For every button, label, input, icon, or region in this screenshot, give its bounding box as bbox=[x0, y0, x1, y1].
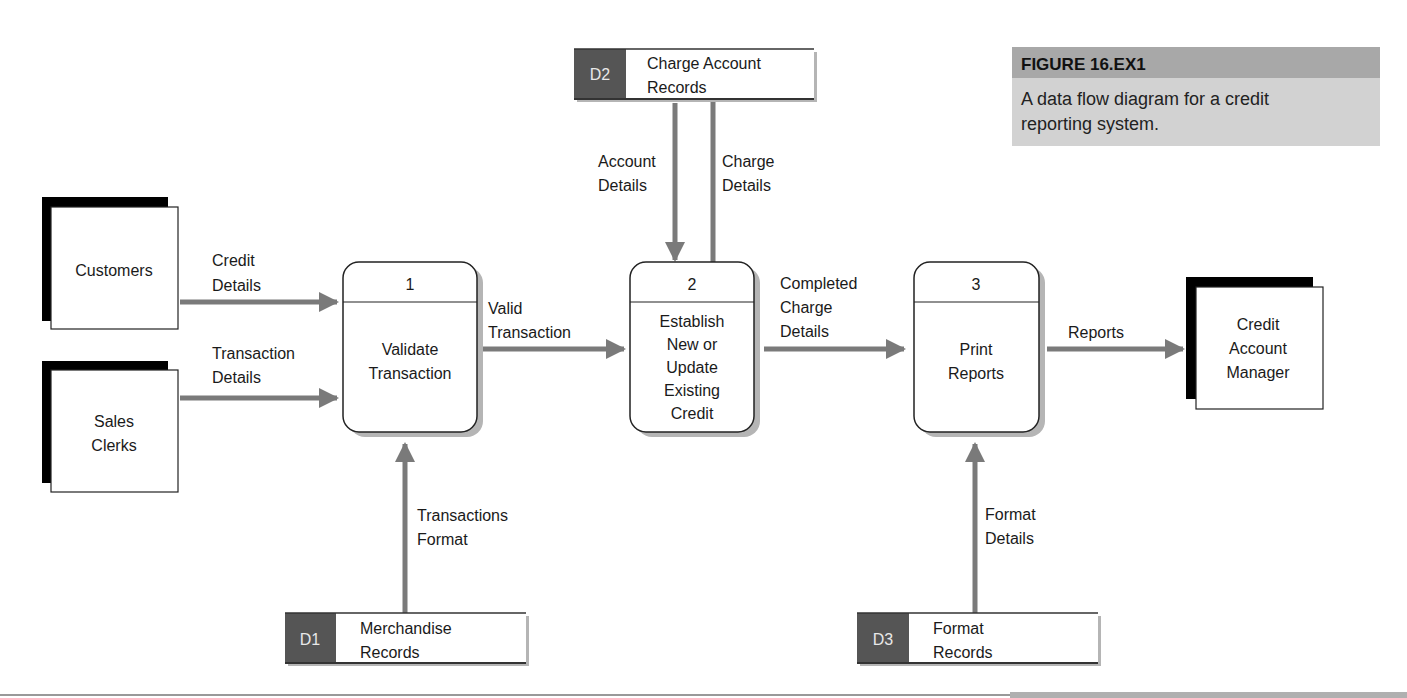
process-label-line-2: New or bbox=[667, 336, 718, 353]
flow-label-format-details-1: Format bbox=[985, 506, 1036, 523]
store-label-line-2: Records bbox=[360, 644, 420, 661]
flow-label-transaction-details-2: Details bbox=[212, 369, 261, 386]
flow-label-valid-transaction-2: Transaction bbox=[488, 324, 571, 341]
process-number: 3 bbox=[972, 276, 981, 293]
entity-label-line-2: Account bbox=[1229, 340, 1287, 357]
process-label-line-1: Print bbox=[960, 341, 993, 358]
process-label-line-1: Establish bbox=[660, 313, 725, 330]
process-number: 1 bbox=[406, 276, 415, 293]
process-3[interactable]: 3 Print Reports bbox=[914, 262, 1045, 437]
store-label-line-1: Charge Account bbox=[647, 55, 761, 72]
store-label-line-2: Records bbox=[933, 644, 993, 661]
flow-label-credit-details-1: Credit bbox=[212, 252, 255, 269]
flow-label-transactions-format-1: Transactions bbox=[417, 507, 508, 524]
process-label-line-2: Transaction bbox=[369, 365, 452, 382]
process-1[interactable]: 1 Validate Transaction bbox=[343, 262, 483, 437]
flow-label-reports: Reports bbox=[1068, 324, 1124, 341]
process-label-line-2: Reports bbox=[948, 365, 1004, 382]
process-number: 2 bbox=[688, 276, 697, 293]
store-id: D1 bbox=[300, 631, 321, 648]
flow-label-valid-transaction-1: Valid bbox=[488, 300, 522, 317]
entity-label-line-1: Credit bbox=[1237, 316, 1280, 333]
page-bottom-rule bbox=[0, 692, 1407, 698]
data-store-d3[interactable]: D3 Format Records bbox=[857, 613, 1101, 666]
process-label-line-5: Credit bbox=[671, 405, 714, 422]
data-store-d1[interactable]: D1 Merchandise Records bbox=[285, 613, 529, 666]
entity-label: Customers bbox=[75, 262, 152, 279]
flow-label-completed-charge-details-2: Charge bbox=[780, 299, 833, 316]
process-2[interactable]: 2 Establish New or Update Existing Credi… bbox=[630, 262, 760, 437]
flow-label-charge-details-1: Charge bbox=[722, 153, 775, 170]
flow-label-charge-details-2: Details bbox=[722, 177, 771, 194]
entity-sales-clerks[interactable]: Sales Clerks bbox=[42, 361, 178, 492]
store-label-line-2: Records bbox=[647, 79, 707, 96]
entity-customers[interactable]: Customers bbox=[42, 197, 178, 329]
bottom-rule-bar bbox=[1010, 692, 1407, 698]
caption-line-1: A data flow diagram for a credit bbox=[1021, 89, 1269, 109]
flow-label-transactions-format-2: Format bbox=[417, 531, 468, 548]
process-label-line-3: Update bbox=[666, 359, 718, 376]
flow-label-credit-details-2: Details bbox=[212, 277, 261, 294]
entity-label-line-2: Clerks bbox=[91, 437, 136, 454]
figure-caption: FIGURE 16.EX1 A data flow diagram for a … bbox=[1012, 47, 1380, 146]
entity-label-line-3: Manager bbox=[1226, 364, 1290, 381]
store-id: D3 bbox=[873, 631, 894, 648]
entity-box bbox=[51, 370, 178, 492]
process-label-line-1: Validate bbox=[382, 341, 439, 358]
store-label-line-1: Merchandise bbox=[360, 620, 452, 637]
data-store-d2[interactable]: D2 Charge Account Records bbox=[574, 49, 817, 102]
flow-label-completed-charge-details-3: Details bbox=[780, 323, 829, 340]
flow-label-transaction-details-1: Transaction bbox=[212, 345, 295, 362]
flow-label-account-details-1: Account bbox=[598, 153, 656, 170]
figure-label: FIGURE 16.EX1 bbox=[1021, 55, 1146, 74]
data-flow-diagram: FIGURE 16.EX1 A data flow diagram for a … bbox=[0, 0, 1407, 698]
process-label-line-4: Existing bbox=[664, 382, 720, 399]
store-label-line-1: Format bbox=[933, 620, 984, 637]
flow-label-completed-charge-details-1: Completed bbox=[780, 275, 857, 292]
store-id: D2 bbox=[590, 66, 611, 83]
caption-line-2: reporting system. bbox=[1021, 114, 1159, 134]
flow-label-account-details-2: Details bbox=[598, 177, 647, 194]
flow-label-format-details-2: Details bbox=[985, 530, 1034, 547]
entity-label-line-1: Sales bbox=[94, 413, 134, 430]
entity-credit-account-manager[interactable]: Credit Account Manager bbox=[1186, 277, 1323, 409]
